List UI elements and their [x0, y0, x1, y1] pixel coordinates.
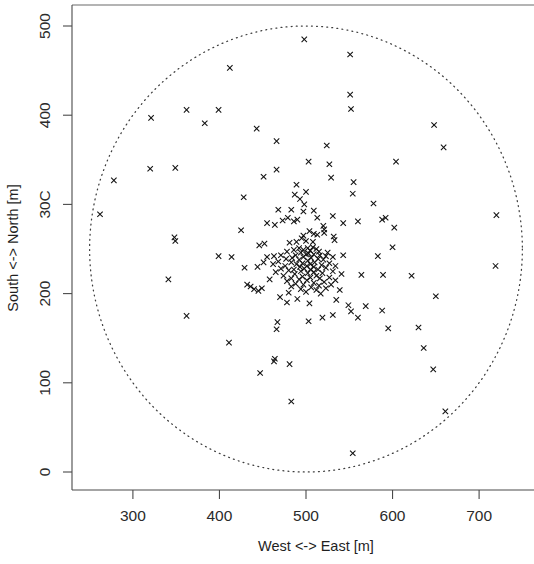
data-point-marker [380, 272, 385, 277]
data-point-marker [148, 166, 153, 171]
data-point-marker [261, 260, 266, 265]
data-point-marker [302, 37, 307, 42]
data-point-marker [284, 249, 289, 254]
data-point-marker [226, 340, 231, 345]
data-point-marker [321, 230, 326, 235]
data-point-marker [332, 237, 337, 242]
data-point-marker [327, 261, 332, 266]
data-point-marker [306, 319, 311, 324]
data-point-marker [416, 325, 421, 330]
data-point-marker [303, 289, 308, 294]
data-point-marker [315, 215, 320, 220]
data-point-marker [148, 115, 153, 120]
data-point-marker [276, 259, 281, 264]
data-point-marker [286, 268, 291, 273]
data-point-marker [392, 225, 397, 230]
data-points-layer [97, 37, 499, 456]
data-point-marker [261, 174, 266, 179]
data-point-marker [348, 106, 353, 111]
data-point-marker [431, 122, 436, 127]
data-point-marker [274, 167, 279, 172]
data-point-marker [441, 145, 446, 150]
data-point-marker [202, 121, 207, 126]
data-point-marker [327, 275, 332, 280]
data-point-marker [363, 303, 368, 308]
data-point-marker [307, 301, 312, 306]
data-point-marker [323, 286, 328, 291]
data-point-marker [375, 253, 380, 258]
data-point-marker [287, 361, 292, 366]
data-point-marker [310, 239, 315, 244]
data-point-marker [301, 209, 306, 214]
data-point-marker [294, 182, 299, 187]
data-point-marker [390, 245, 395, 250]
y-axis-title: South <-> North [m] [5, 184, 21, 311]
x-axis-ticks [133, 490, 479, 499]
data-point-marker [296, 277, 301, 282]
y-tick-label-group: 010020030C400500 [36, 13, 53, 477]
data-point-marker [330, 254, 335, 259]
data-point-marker [317, 276, 322, 281]
x-tick-label: 400 [207, 507, 233, 524]
data-point-marker [289, 399, 294, 404]
data-point-marker [293, 253, 298, 258]
data-point-marker [347, 52, 352, 57]
data-point-marker [270, 261, 275, 266]
data-point-marker [286, 290, 291, 295]
data-point-marker [300, 274, 305, 279]
data-point-marker [337, 287, 342, 292]
data-point-marker [289, 260, 294, 265]
data-point-marker [184, 313, 189, 318]
data-point-marker [216, 253, 221, 258]
data-point-marker [350, 451, 355, 456]
data-point-marker [242, 265, 247, 270]
data-point-marker [297, 196, 302, 201]
scatter-plot-figure: 300400500600700 010020030C400500 West <-… [0, 0, 534, 564]
data-point-marker [216, 107, 221, 112]
data-point-marker [320, 270, 325, 275]
data-point-marker [238, 228, 243, 233]
data-point-marker [229, 254, 234, 259]
data-point-marker [443, 409, 448, 414]
data-point-marker [259, 286, 264, 291]
data-point-marker [303, 189, 308, 194]
data-point-marker [431, 367, 436, 372]
y-tick-label: 30C [36, 190, 53, 218]
data-point-marker [97, 212, 102, 217]
data-point-marker [275, 319, 280, 324]
data-point-marker [292, 192, 297, 197]
data-point-marker [308, 267, 313, 272]
data-point-marker [287, 240, 292, 245]
data-point-marker [241, 195, 246, 200]
data-point-marker [351, 179, 356, 184]
data-point-marker [306, 159, 311, 164]
data-point-marker [333, 263, 338, 268]
y-axis-ticks [63, 26, 72, 472]
data-point-marker [330, 269, 335, 274]
data-point-marker [350, 191, 355, 196]
data-point-marker [264, 254, 269, 259]
data-point-marker [359, 272, 364, 277]
data-point-marker [227, 65, 232, 70]
data-point-marker [173, 238, 178, 243]
data-point-marker [302, 202, 307, 207]
y-tick-label: 200 [36, 280, 53, 306]
data-point-marker [295, 296, 300, 301]
x-tick-label-group: 300400500600700 [120, 507, 492, 524]
data-point-marker [355, 219, 360, 224]
data-point-marker [433, 294, 438, 299]
plot-canvas: 300400500600700 010020030C400500 West <-… [0, 0, 534, 564]
data-point-marker [274, 138, 279, 143]
data-point-marker [347, 92, 352, 97]
data-point-marker [267, 277, 272, 282]
data-point-marker [324, 143, 329, 148]
data-point-marker [346, 303, 351, 308]
data-point-marker [355, 315, 360, 320]
data-point-marker [328, 282, 333, 287]
data-point-marker [276, 207, 281, 212]
data-point-marker [330, 312, 335, 317]
coverage-boundary-circle [90, 26, 523, 472]
data-point-marker [318, 291, 323, 296]
y-tick-label: 500 [36, 13, 53, 39]
data-point-marker [289, 207, 294, 212]
